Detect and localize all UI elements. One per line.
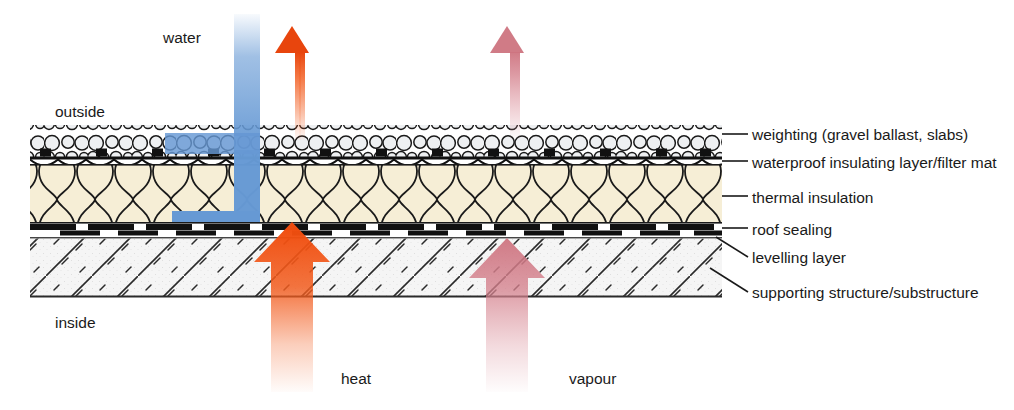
label-layer-weighting: weighting (gravel ballast, slabs) [752,127,968,143]
label-layer-filter-mat: waterproof insulating layer/filter mat [752,155,997,171]
label-layer-substructure: supporting structure/substructure [752,285,979,301]
label-heat: heat [341,371,371,387]
layer-thermal-insulation [30,164,722,222]
label-layer-thermal-insulation: thermal insulation [752,190,873,206]
heat-arrow-outside [275,26,309,140]
label-water: water [163,30,201,46]
label-inside: inside [55,315,96,331]
label-layer-roof-sealing: roof sealing [752,222,832,238]
vapour-arrow-outside [490,26,524,140]
layer-roof-sealing [30,222,722,236]
roof-buildup-diagram: outside inside water heat vapour weighti… [0,0,1014,410]
label-outside: outside [55,104,105,120]
layer-levelling [30,236,722,239]
label-layer-levelling: levelling layer [752,250,846,266]
label-vapour: vapour [569,371,616,387]
layer-substructure [30,239,722,298]
